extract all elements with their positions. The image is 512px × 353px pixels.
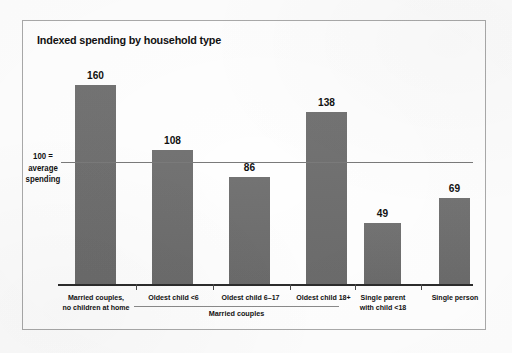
bar-value-oldest-child-under-6: 108 xyxy=(154,134,192,146)
chart-frame: Indexed spending by household type 160 1… xyxy=(22,20,486,330)
group-bracket-rule xyxy=(134,306,339,307)
bar-married-no-children xyxy=(75,85,116,284)
group-bracket-label: Married couples xyxy=(141,309,332,318)
bar-oldest-child-18-plus xyxy=(306,112,347,284)
bar-single-parent xyxy=(364,223,401,284)
axis-tick-2 xyxy=(213,284,214,290)
category-label-line-1: Single person xyxy=(410,293,499,303)
category-label-line-2: with child <18 xyxy=(338,303,427,313)
bar-single-person xyxy=(439,198,470,284)
axis-tick-1 xyxy=(136,284,137,290)
axis-tick-5 xyxy=(421,284,422,290)
bar-value-oldest-child-18-plus: 138 xyxy=(308,96,346,108)
bar-value-single-parent: 49 xyxy=(365,207,399,219)
reference-label-line-2: average xyxy=(25,163,62,175)
plot-area: 160 108 86 138 49 69 100 = average spend… xyxy=(23,21,487,331)
bar-value-single-person: 69 xyxy=(438,182,470,194)
axis-tick-3 xyxy=(290,284,291,290)
bar-oldest-child-under-6 xyxy=(152,150,193,284)
bar-value-married-no-children: 160 xyxy=(77,69,115,81)
bar-oldest-child-6-17 xyxy=(229,177,270,284)
reference-label-line-3: spending xyxy=(25,174,62,186)
category-label-single-person: Single person xyxy=(410,293,499,303)
reference-line-label: 100 = average spending xyxy=(25,151,62,186)
axis-tick-4 xyxy=(355,284,356,290)
reference-label-line-1: 100 = xyxy=(25,151,62,163)
category-label-line-2: no children at home xyxy=(45,303,147,313)
x-axis-baseline xyxy=(58,284,473,286)
reference-line-100 xyxy=(61,162,473,163)
scanned-page: Indexed spending by household type 160 1… xyxy=(0,0,512,353)
